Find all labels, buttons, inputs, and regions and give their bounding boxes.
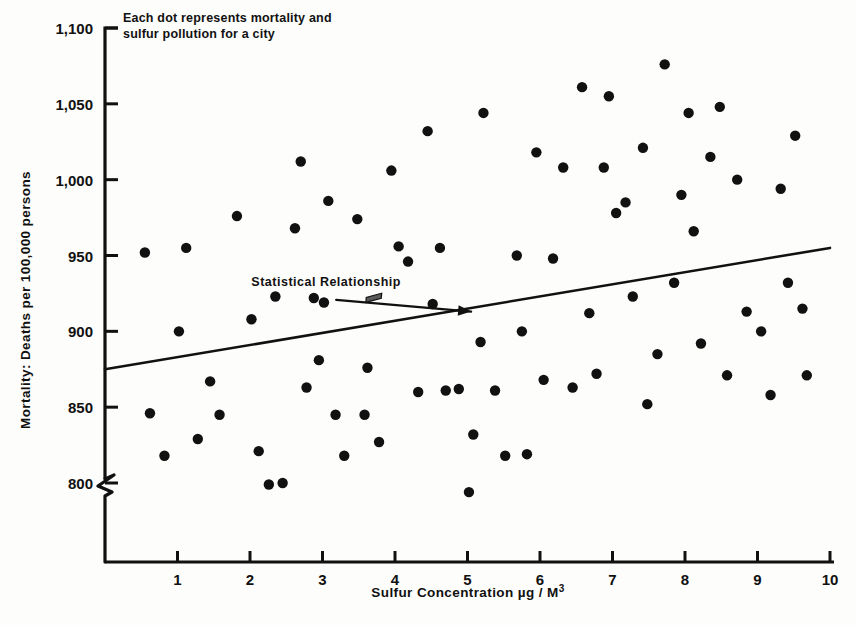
scatter-point	[660, 59, 670, 69]
scatter-point	[628, 291, 638, 301]
scatter-point	[652, 349, 662, 359]
scatter-point	[301, 382, 311, 392]
scatter-point	[478, 108, 488, 118]
scatter-point	[374, 437, 384, 447]
scatter-point	[232, 211, 242, 221]
scatter-point	[330, 410, 340, 420]
y-tick-label: 1,100	[55, 20, 93, 37]
scatter-point	[468, 429, 478, 439]
svg-text:Each dot represents mortality: Each dot represents mortality and	[123, 11, 332, 25]
scatter-point	[599, 162, 609, 172]
y-tick-label: 1,050	[55, 96, 93, 113]
x-tick-label: 2	[246, 571, 254, 588]
x-tick-label: 7	[608, 571, 616, 588]
scatter-point	[352, 214, 362, 224]
scatter-point	[296, 156, 306, 166]
scatter-point	[214, 410, 224, 420]
scatter-point	[558, 162, 568, 172]
scatter-point	[567, 382, 577, 392]
scatter-point	[531, 147, 541, 157]
x-tick-label: 10	[822, 571, 839, 588]
scatter-point	[339, 451, 349, 461]
scatter-point	[802, 370, 812, 380]
scatter-point	[140, 247, 150, 257]
scatter-point	[435, 243, 445, 253]
y-tick-label: 900	[68, 323, 93, 340]
scatter-chart-canvas: 8008509009501,0001,0501,100 12345678910 …	[0, 0, 856, 625]
scatter-point	[174, 326, 184, 336]
y-tick-label: 1,000	[55, 172, 93, 189]
scatter-point	[797, 303, 807, 313]
scatter-point	[314, 355, 324, 365]
scatter-point	[393, 241, 403, 251]
scatter-point	[145, 408, 155, 418]
scatter-point	[309, 293, 319, 303]
scatter-point	[604, 91, 614, 101]
scatter-point	[362, 363, 372, 373]
scatter-point	[765, 390, 775, 400]
scatter-point	[386, 165, 396, 175]
svg-text:Sulfur Concentration µg / M3: Sulfur Concentration µg / M3	[371, 583, 564, 600]
scatter-point	[454, 384, 464, 394]
scatter-point	[732, 174, 742, 184]
scatter-point	[705, 152, 715, 162]
x-axis-title: Sulfur Concentration µg / M3	[371, 583, 564, 600]
scatter-point	[669, 278, 679, 288]
scatter-point	[323, 196, 333, 206]
scatter-point	[512, 250, 522, 260]
scatter-point	[591, 369, 601, 379]
scatter-point	[403, 256, 413, 266]
x-tick-label: 3	[318, 571, 326, 588]
scatter-point	[193, 434, 203, 444]
scatter-point	[290, 223, 300, 233]
scatter-point	[790, 130, 800, 140]
scatter-point	[783, 278, 793, 288]
scatter-point	[181, 243, 191, 253]
scatter-point	[475, 337, 485, 347]
scatter-point	[422, 126, 432, 136]
scatter-point	[741, 306, 751, 316]
scatter-point	[689, 226, 699, 236]
scatter-point	[538, 375, 548, 385]
scatter-point	[548, 253, 558, 263]
scatter-point	[277, 478, 287, 488]
scatter-point	[254, 446, 264, 456]
scatter-point	[776, 184, 786, 194]
scatter-point	[500, 451, 510, 461]
scatter-point	[683, 108, 693, 118]
scatter-point	[676, 190, 686, 200]
scatter-point	[517, 326, 527, 336]
scatter-point	[642, 399, 652, 409]
chart-background	[0, 0, 856, 625]
x-tick-label: 1	[173, 571, 181, 588]
x-tick-label: 8	[681, 571, 689, 588]
scatter-point	[638, 143, 648, 153]
scatter-point	[270, 291, 280, 301]
scatter-point	[577, 82, 587, 92]
scatter-point	[205, 376, 215, 386]
y-tick-label: 800	[68, 475, 93, 492]
scatter-point	[522, 449, 532, 459]
scatter-point	[319, 297, 329, 307]
chart-figure: 8008509009501,0001,0501,100 12345678910 …	[0, 0, 856, 625]
x-tick-label: 9	[753, 571, 761, 588]
scatter-point	[441, 385, 451, 395]
scatter-point	[696, 338, 706, 348]
y-tick-label: 950	[68, 248, 93, 265]
svg-text:sulfur pollution for a city: sulfur pollution for a city	[123, 27, 275, 41]
scatter-point	[715, 102, 725, 112]
scatter-point	[722, 370, 732, 380]
scatter-point	[756, 326, 766, 336]
scatter-point	[264, 479, 274, 489]
scatter-point	[584, 308, 594, 318]
scatter-point	[611, 208, 621, 218]
y-tick-label: 850	[68, 399, 93, 416]
scatter-point	[159, 451, 169, 461]
scatter-point	[490, 385, 500, 395]
scatter-point	[413, 387, 423, 397]
scatter-point	[246, 314, 256, 324]
scatter-point	[464, 487, 474, 497]
scatter-point	[359, 410, 369, 420]
y-axis-title: Mortality: Deaths per 100,000 persons	[18, 171, 33, 429]
scatter-point	[620, 197, 630, 207]
